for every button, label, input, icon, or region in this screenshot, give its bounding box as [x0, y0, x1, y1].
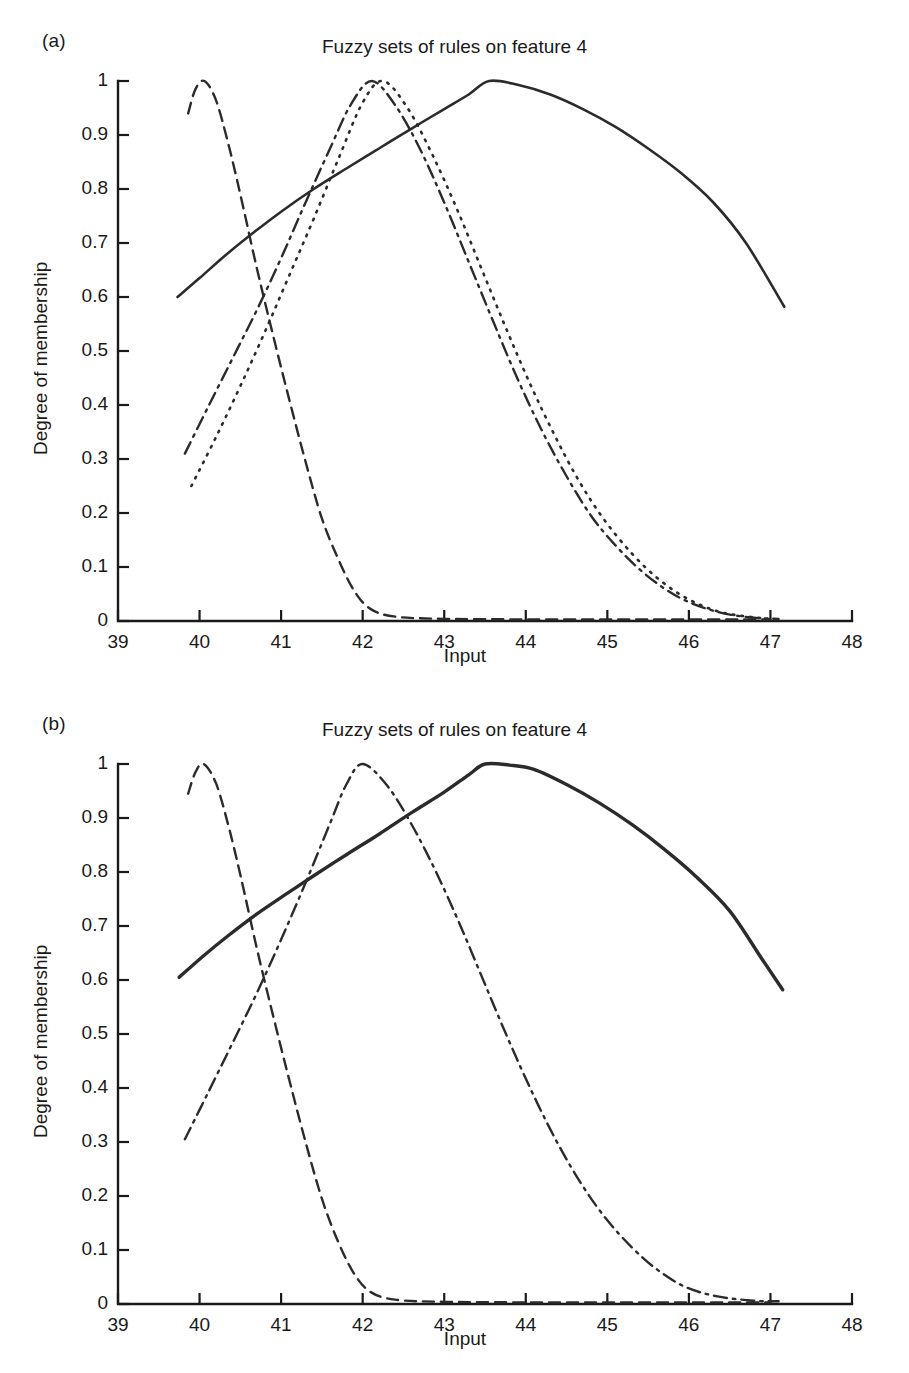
figure-panel-a: (a) Fuzzy sets of rules on feature 4 Deg…: [0, 0, 909, 690]
axis-lines: [118, 81, 852, 621]
plot-area-a: [0, 0, 909, 690]
curve-membership-function-2: [188, 764, 770, 1303]
x-tick-label: 47: [740, 631, 800, 653]
axis-lines: [118, 764, 852, 1304]
y-tick-label: 0.3: [20, 447, 108, 469]
x-tick-label: 46: [659, 631, 719, 653]
x-tick-label: 45: [577, 1314, 637, 1336]
x-tick-label: 42: [333, 631, 393, 653]
curve-membership-function-1: [179, 763, 783, 989]
y-tick-label: 0.2: [20, 501, 108, 523]
curve-membership-function-2: [188, 81, 770, 620]
plot-area-b: [0, 683, 909, 1373]
x-tick-label: 44: [496, 631, 556, 653]
y-tick-label: 0.9: [20, 806, 108, 828]
x-tick-label: 43: [414, 631, 474, 653]
curve-membership-function-4: [191, 81, 778, 619]
y-tick-label: 0.6: [20, 968, 108, 990]
x-tick-label: 44: [496, 1314, 556, 1336]
y-tick-label: 0.5: [20, 339, 108, 361]
y-tick-label: 0: [20, 1292, 108, 1314]
x-tick-label: 43: [414, 1314, 474, 1336]
curve-membership-function-3: [185, 764, 779, 1301]
x-tick-label: 48: [822, 1314, 882, 1336]
y-tick-label: 0.5: [20, 1022, 108, 1044]
x-tick-label: 40: [170, 631, 230, 653]
x-tick-label: 47: [740, 1314, 800, 1336]
y-tick-label: 0.1: [20, 1238, 108, 1260]
y-tick-label: 0.8: [20, 177, 108, 199]
y-tick-label: 0.1: [20, 555, 108, 577]
y-tick-label: 0: [20, 609, 108, 631]
x-tick-label: 46: [659, 1314, 719, 1336]
x-tick-label: 48: [822, 631, 882, 653]
x-tick-label: 39: [88, 631, 148, 653]
x-tick-label: 42: [333, 1314, 393, 1336]
x-tick-label: 39: [88, 1314, 148, 1336]
y-tick-label: 1: [20, 752, 108, 774]
figure-panel-b: (b) Fuzzy sets of rules on feature 4 Deg…: [0, 683, 909, 1373]
y-tick-label: 0.8: [20, 860, 108, 882]
y-tick-label: 0.3: [20, 1130, 108, 1152]
y-tick-label: 0.9: [20, 123, 108, 145]
curve-membership-function-3: [185, 81, 779, 619]
y-tick-label: 1: [20, 69, 108, 91]
y-tick-label: 0.7: [20, 914, 108, 936]
curve-membership-function-1: [178, 81, 785, 307]
y-tick-label: 0.7: [20, 231, 108, 253]
x-tick-label: 41: [251, 631, 311, 653]
x-tick-label: 40: [170, 1314, 230, 1336]
x-tick-label: 41: [251, 1314, 311, 1336]
y-tick-label: 0.6: [20, 285, 108, 307]
y-tick-label: 0.2: [20, 1184, 108, 1206]
y-tick-label: 0.4: [20, 1076, 108, 1098]
y-tick-label: 0.4: [20, 393, 108, 415]
x-tick-label: 45: [577, 631, 637, 653]
